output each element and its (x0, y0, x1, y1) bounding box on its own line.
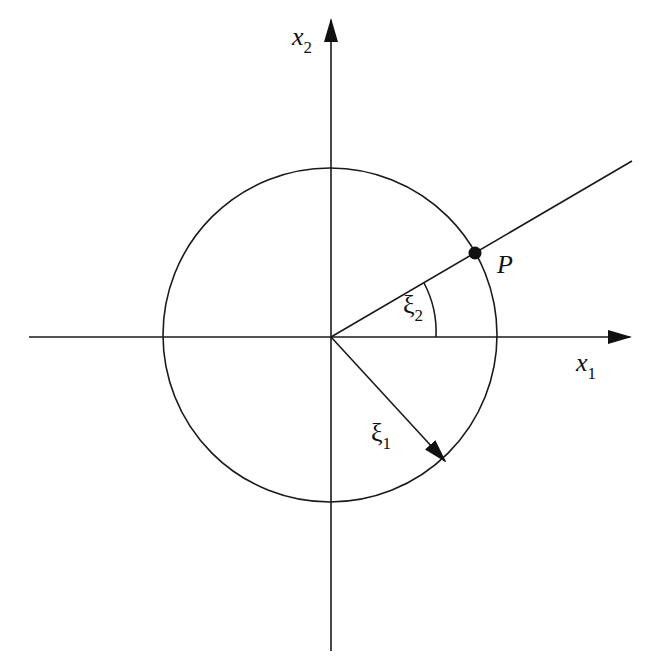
x2-subscript: 2 (304, 38, 313, 57)
vector-xi1-label: ξ1 (371, 420, 391, 446)
x1-subscript: 1 (588, 364, 597, 383)
x1-symbol: x (576, 348, 588, 377)
point-p-marker (469, 247, 482, 260)
xi2-subscript: 2 (415, 306, 424, 325)
point-p-label: P (497, 252, 513, 278)
x1-axis-label: x1 (576, 350, 596, 376)
angle-arc-xi2 (424, 283, 436, 337)
x2-axis-label: x2 (292, 24, 312, 50)
x2-symbol: x (292, 22, 304, 51)
xi2-symbol: ξ (403, 290, 415, 319)
angle-xi2-label: ξ2 (403, 292, 423, 318)
polar-coordinate-diagram: x2 x1 P ξ2 ξ1 (0, 0, 657, 670)
circle (163, 168, 497, 502)
xi1-symbol: ξ (371, 418, 383, 447)
ray-through-p (331, 161, 632, 337)
xi1-subscript: 1 (383, 434, 392, 453)
p-text: P (497, 250, 513, 279)
